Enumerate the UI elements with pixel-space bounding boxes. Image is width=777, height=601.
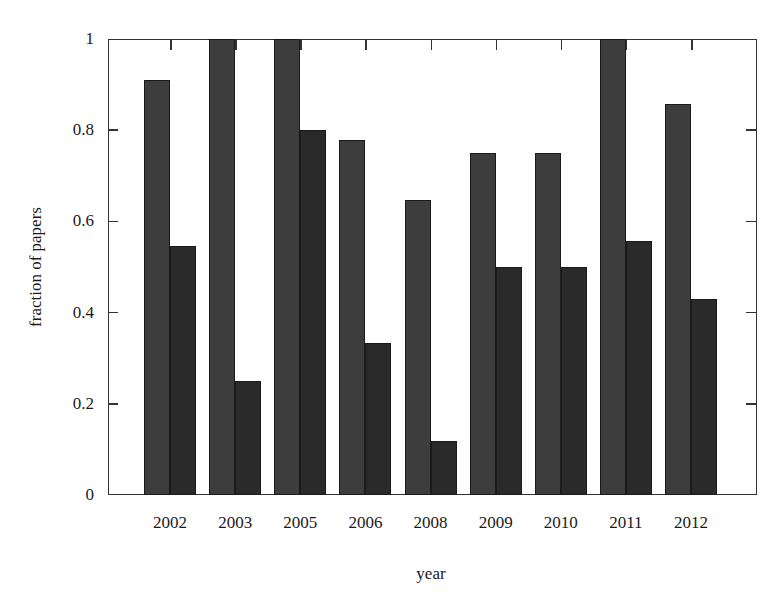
y-tick-mark [746,129,756,131]
y-tick-mark [108,403,118,405]
bar-2002-series-2 [170,246,196,495]
bar-2002-series-1 [144,80,170,495]
x-tick-mark [235,40,237,50]
bar-2005-series-2 [300,130,326,495]
x-tick-label: 2005 [283,513,317,533]
x-tick-mark [496,40,498,50]
bar-2008-series-1 [405,200,431,495]
y-tick-mark [108,312,118,314]
y-tick-label: 0.2 [73,394,94,414]
bar-2011-series-2 [626,241,652,495]
x-tick-mark [170,40,172,50]
bar-2006-series-1 [339,140,365,495]
y-tick-mark [746,221,756,223]
x-tick-mark [626,40,628,50]
bar-2012-series-1 [665,104,691,495]
bar-2003-series-2 [235,381,261,495]
y-tick-mark [746,403,756,405]
plot-area [108,39,757,495]
bar-2009-series-1 [470,153,496,495]
x-tick-label: 2011 [609,513,642,533]
bar-2003-series-1 [209,39,235,495]
x-tick-label: 2009 [479,513,513,533]
x-tick-label: 2010 [544,513,578,533]
bar-2010-series-2 [561,267,587,495]
x-axis-label: year [416,564,445,584]
x-tick-mark [431,40,433,50]
y-tick-mark [108,129,118,131]
x-tick-label: 2006 [348,513,382,533]
y-tick-label: 0 [86,485,95,505]
x-tick-mark [691,40,693,50]
y-tick-label: 0.6 [73,211,94,231]
bar-2008-series-2 [431,441,457,495]
y-tick-label: 1 [86,29,95,49]
y-axis-label: fraction of papers [26,207,46,327]
y-tick-mark [108,221,118,223]
bar-2010-series-1 [535,153,561,495]
bar-2012-series-2 [691,299,717,495]
x-tick-label: 2008 [414,513,448,533]
y-tick-label: 0.8 [73,120,94,140]
x-tick-label: 2002 [153,513,187,533]
bar-2006-series-2 [365,343,391,495]
x-tick-mark [300,40,302,50]
x-tick-mark [365,40,367,50]
x-tick-label: 2003 [218,513,252,533]
y-tick-label: 0.4 [73,303,94,323]
x-tick-label: 2012 [674,513,708,533]
y-tick-mark [746,312,756,314]
bar-2011-series-1 [600,39,626,495]
x-tick-mark [561,40,563,50]
bar-2005-series-1 [274,39,300,495]
bar-2009-series-2 [496,267,522,495]
